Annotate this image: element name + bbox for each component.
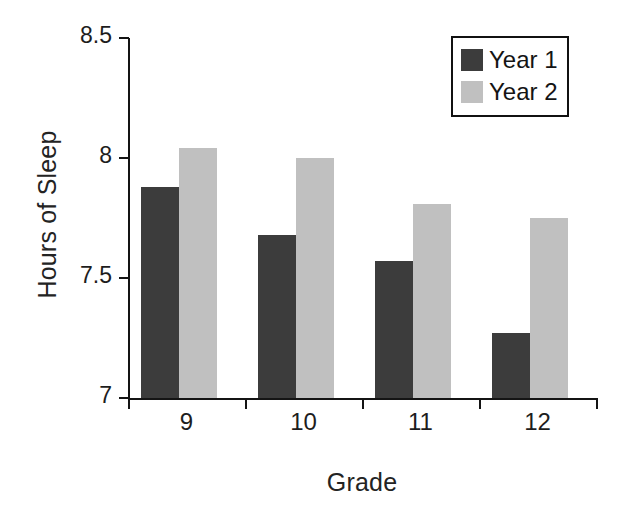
bar: [258, 235, 296, 398]
bar: [179, 148, 217, 398]
y-tick-label: 8: [42, 142, 112, 169]
y-tick: [119, 277, 129, 279]
bar: [530, 218, 568, 398]
legend: Year 1Year 2: [451, 36, 569, 117]
x-tick: [128, 398, 130, 409]
y-axis-line: [128, 38, 130, 400]
legend-item: Year 1: [461, 44, 558, 76]
y-tick-label: 8.5: [42, 22, 112, 49]
x-tick: [245, 398, 247, 409]
x-tick: [362, 398, 364, 409]
bar: [296, 158, 334, 398]
y-tick: [119, 37, 129, 39]
y-tick: [119, 157, 129, 159]
bar-chart: Hours of Sleep Grade 77.588.5 9101112 Ye…: [0, 0, 627, 520]
y-tick-label: 7.5: [42, 262, 112, 289]
bar: [492, 333, 530, 398]
bar: [141, 187, 179, 398]
legend-label: Year 1: [489, 48, 558, 72]
legend-swatch-icon: [461, 49, 483, 71]
legend-item: Year 2: [461, 76, 558, 108]
legend-swatch-icon: [461, 81, 483, 103]
x-tick: [479, 398, 481, 409]
bar: [413, 204, 451, 398]
x-tick-label: 10: [264, 408, 344, 436]
x-axis-title: Grade: [127, 468, 597, 497]
y-axis-title: Hours of Sleep: [33, 85, 62, 345]
x-tick-label: 9: [147, 408, 227, 436]
x-tick-label: 11: [381, 408, 461, 436]
bar: [375, 261, 413, 398]
y-tick-label: 7: [42, 382, 112, 409]
x-tick: [596, 398, 598, 409]
x-tick-label: 12: [498, 408, 578, 436]
legend-label: Year 2: [489, 80, 558, 104]
